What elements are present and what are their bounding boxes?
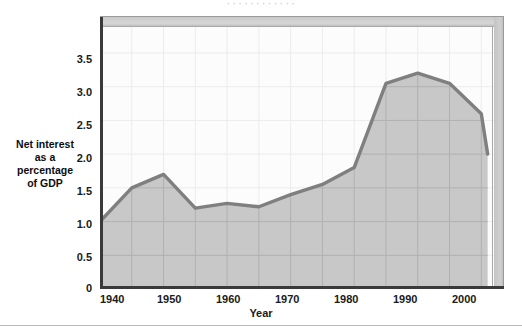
plot-area: [100, 26, 494, 289]
x-tick-label-2000: 2000: [452, 293, 476, 305]
plot-bevel-top-edge: [100, 16, 504, 17]
y-tick-label-0: 0: [58, 282, 92, 294]
chart-svg: [100, 26, 494, 289]
x-tick-label-1970: 1970: [275, 293, 299, 305]
y-tick-label-1.0: 1.0: [58, 218, 92, 230]
x-tick-label-1950: 1950: [157, 293, 181, 305]
x-axis-title: Year: [0, 307, 522, 319]
footer-divider: [0, 325, 522, 326]
area-fill: [100, 73, 488, 289]
clipped-header-text: · · · · · · · · · · · ·: [0, 0, 522, 8]
y-axis-line: [100, 17, 103, 289]
x-tick-label-1940: 1940: [100, 293, 124, 305]
y-tick-label-3.5: 3.5: [58, 53, 92, 65]
y-tick-label-2.5: 2.5: [58, 119, 92, 131]
y-tick-label-2.0: 2.0: [58, 152, 92, 164]
chart-figure: · · · · · · · · · · · · Net interest as …: [0, 0, 522, 332]
x-tick-label-1980: 1980: [334, 293, 358, 305]
plot-bevel-right-edge: [503, 16, 504, 289]
plot-inner-right-border: [492, 26, 493, 287]
y-axis-title-line-1: Net interest: [2, 138, 88, 151]
y-axis-title-line-3: percentage: [2, 164, 88, 177]
plot-inner-top-border: [100, 26, 494, 27]
y-tick-label-1.5: 1.5: [58, 185, 92, 197]
x-tick-label-1990: 1990: [393, 293, 417, 305]
x-tick-label-1960: 1960: [216, 293, 240, 305]
y-tick-label-3.0: 3.0: [58, 86, 92, 98]
y-tick-label-0.5: 0.5: [58, 251, 92, 263]
x-axis-line: [100, 286, 504, 289]
y-axis-title: Net interest as a percentage of GDP: [2, 138, 88, 190]
plot-frame: [100, 26, 504, 289]
